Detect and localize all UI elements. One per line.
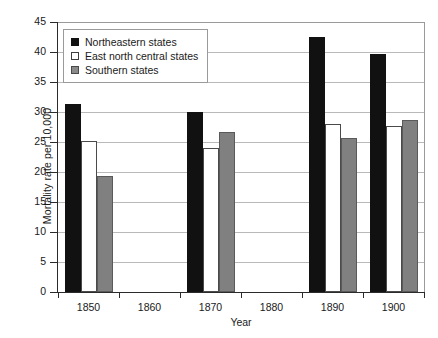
legend-item: Northeastern states — [71, 35, 198, 49]
x-axis-tick-label: 1850 — [59, 301, 119, 313]
x-axis-title: Year — [57, 316, 425, 328]
y-axis-tick: 20 — [50, 172, 58, 173]
gridline — [58, 22, 424, 23]
y-axis-tick-label: 10 — [6, 225, 46, 237]
y-axis-tick: 45 — [50, 22, 58, 23]
y-axis-tick: 40 — [50, 52, 58, 53]
x-axis-tick-label: 1900 — [364, 301, 424, 313]
bar — [219, 132, 235, 292]
x-axis-tick-label: 1880 — [242, 301, 302, 313]
y-axis-tick-label: 30 — [6, 105, 46, 117]
bar — [97, 176, 113, 292]
x-axis-tick — [180, 292, 181, 298]
bar — [203, 148, 219, 292]
bar — [386, 126, 402, 292]
x-axis-tick — [119, 292, 120, 298]
bar — [325, 124, 341, 292]
bar — [370, 54, 386, 292]
bar — [402, 120, 418, 292]
y-axis-tick: 30 — [50, 112, 58, 113]
bar — [81, 141, 97, 292]
legend-swatch-icon — [71, 66, 79, 74]
x-axis-tick — [424, 292, 425, 298]
y-axis-tick: 0 — [50, 292, 58, 293]
bar — [187, 112, 203, 292]
legend-swatch-icon — [71, 52, 79, 60]
x-axis-tick — [241, 292, 242, 298]
y-axis-tick-label: 20 — [6, 165, 46, 177]
legend-item-label: East north central states — [85, 49, 198, 63]
y-axis-tick-label: 35 — [6, 75, 46, 87]
bar — [309, 37, 325, 292]
y-axis-tick-label: 25 — [6, 135, 46, 147]
y-axis-tick-label: 40 — [6, 45, 46, 57]
x-axis-tick-label: 1860 — [120, 301, 180, 313]
legend-swatch-icon — [71, 38, 79, 46]
y-axis-tick: 35 — [50, 82, 58, 83]
y-axis-tick: 5 — [50, 262, 58, 263]
bar-chart: Mortality rate per 10,000 05101520253035… — [0, 0, 438, 338]
y-axis-tick: 10 — [50, 232, 58, 233]
legend-item: East north central states — [71, 49, 198, 63]
legend-item: Southern states — [71, 63, 198, 77]
y-axis-tick-label: 45 — [6, 15, 46, 27]
x-axis-tick — [58, 292, 59, 298]
x-axis-tick-label: 1890 — [303, 301, 363, 313]
y-axis-tick-label: 5 — [6, 255, 46, 267]
y-axis-tick: 15 — [50, 202, 58, 203]
x-axis-tick — [302, 292, 303, 298]
legend-item-label: Northeastern states — [85, 35, 177, 49]
y-axis-tick: 25 — [50, 142, 58, 143]
bar — [65, 104, 81, 292]
x-axis-tick-label: 1870 — [181, 301, 241, 313]
y-axis-tick-label: 0 — [6, 285, 46, 297]
bar — [341, 138, 357, 292]
y-axis-tick-label: 15 — [6, 195, 46, 207]
legend-item-label: Southern states — [85, 63, 159, 77]
x-axis-tick — [363, 292, 364, 298]
chart-legend: Northeastern statesEast north central st… — [63, 29, 208, 83]
